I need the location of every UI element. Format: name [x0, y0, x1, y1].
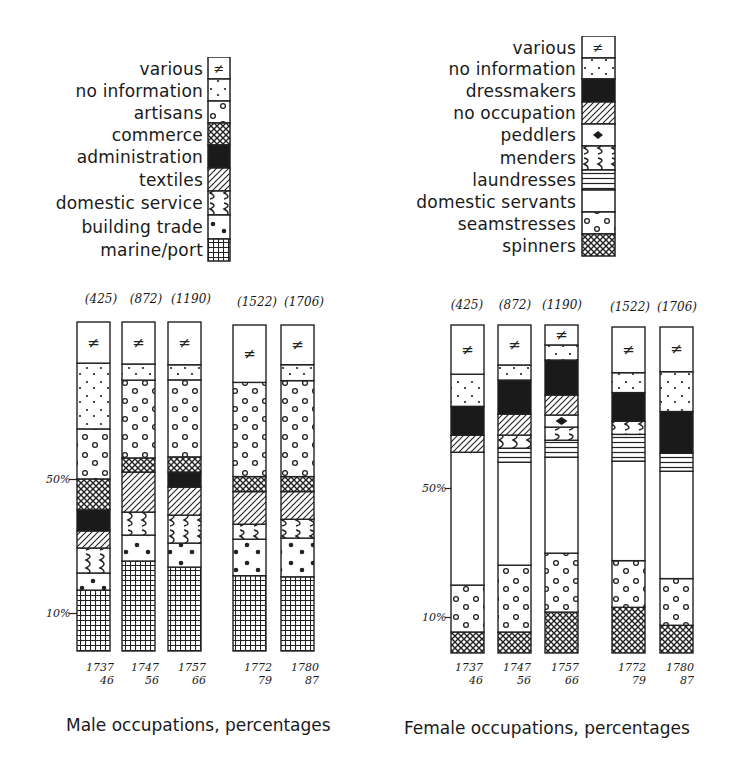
- year-start: 1780: [662, 661, 694, 674]
- segment-seamstresses: [612, 561, 645, 608]
- year-end: 66: [174, 674, 206, 687]
- stacked-bar-1772-79: ≠: [233, 325, 266, 651]
- segment-textiles: [168, 487, 201, 515]
- segment-laundresses: [498, 448, 531, 462]
- segment-spinners: [451, 632, 484, 653]
- segment-no_information: [281, 365, 314, 381]
- segment-seamstresses: [660, 579, 693, 626]
- segment-domestic_servants: [612, 461, 645, 561]
- year-end: 56: [499, 674, 531, 687]
- year-start: 1772: [240, 661, 272, 674]
- neq-icon: ≠: [555, 326, 568, 344]
- segment-artisans: [168, 380, 201, 457]
- segment-seamstresses: [498, 565, 531, 632]
- year-start: 1737: [451, 661, 483, 674]
- segment-textiles: [281, 492, 314, 520]
- neq-icon: ≠: [670, 340, 683, 358]
- segment-domestic_service: [168, 515, 201, 543]
- segment-seamstresses: [545, 553, 578, 612]
- segment-no_information: [122, 364, 155, 380]
- segment-commerce: [77, 479, 110, 510]
- segment-domestic_servants: [545, 457, 578, 553]
- segment-artisans: [281, 381, 314, 477]
- segment-artisans: [77, 429, 110, 479]
- segment-commerce: [122, 458, 155, 472]
- female-caption: Female occupations, percentages: [404, 718, 690, 738]
- stacked-bar-1780-87: ≠: [660, 327, 693, 653]
- segment-no_information: [545, 345, 578, 360]
- segment-no_information: [612, 373, 645, 393]
- segment-domestic_servants: [660, 471, 693, 578]
- segment-marine_port: [281, 577, 314, 651]
- female-year-label: 173746: [451, 661, 483, 687]
- segment-spinners: [545, 612, 578, 653]
- segment-marine_port: [77, 590, 110, 651]
- segment-artisans: [122, 380, 155, 458]
- segment-laundresses: [660, 453, 693, 471]
- segment-spinners: [498, 632, 531, 653]
- segment-textiles: [122, 472, 155, 512]
- neq-icon: ≠: [243, 345, 256, 363]
- male-year-label: 178087: [287, 661, 319, 687]
- stacked-bar-1780-87: ≠: [281, 325, 314, 651]
- segment-menders: [612, 421, 645, 434]
- male-year-label: 173746: [82, 661, 114, 687]
- segment-marine_port: [168, 567, 201, 651]
- segment-domestic_servants: [451, 452, 484, 585]
- year-end: 79: [614, 674, 646, 687]
- segment-commerce: [233, 477, 266, 492]
- segment-no_occupation: [451, 435, 484, 452]
- female-chart-panel: ≠ various no information dressmakers no …: [371, 0, 743, 778]
- segment-domestic_service: [233, 524, 266, 539]
- male-chart-panel: ≠ various no information artisans commer…: [0, 0, 371, 778]
- segment-domestic_service: [77, 548, 110, 573]
- year-end: 56: [127, 674, 159, 687]
- male-year-label: 177279: [240, 661, 272, 687]
- segment-building_trade: [281, 538, 314, 577]
- segment-no_occupation: [498, 414, 531, 435]
- segment-no_information: [77, 363, 110, 429]
- female-year-label: 177279: [614, 661, 646, 687]
- segment-building_trade: [77, 573, 110, 590]
- segment-marine_port: [233, 576, 266, 651]
- segment-dressmakers: [612, 393, 645, 422]
- year-start: 1757: [174, 661, 206, 674]
- year-start: 1747: [127, 661, 159, 674]
- segment-textiles: [77, 531, 110, 548]
- segment-marine_port: [122, 561, 155, 651]
- segment-no_information: [498, 365, 531, 380]
- stacked-bar-1747-56: ≠: [498, 325, 531, 653]
- male-stacked-bars: ≠≠≠≠≠: [0, 0, 371, 700]
- segment-building_trade: [168, 543, 201, 567]
- year-start: 1772: [614, 661, 646, 674]
- year-end: 87: [662, 674, 694, 687]
- stacked-bar-1757-66: ≠: [545, 325, 578, 653]
- year-end: 46: [82, 674, 114, 687]
- neq-icon: ≠: [508, 336, 521, 354]
- neq-icon: ≠: [87, 334, 100, 352]
- segment-menders: [545, 427, 578, 440]
- female-stacked-bars: ≠≠≠≠≠: [371, 0, 743, 700]
- year-end: 87: [287, 674, 319, 687]
- year-end: 46: [451, 674, 483, 687]
- segment-laundresses: [612, 434, 645, 461]
- neq-icon: ≠: [291, 336, 304, 354]
- segment-laundresses: [545, 440, 578, 457]
- neq-icon: ≠: [461, 341, 474, 359]
- female-year-label: 178087: [662, 661, 694, 687]
- segment-administration: [168, 472, 201, 487]
- stacked-bar-1772-79: ≠: [612, 327, 645, 653]
- segment-building_trade: [233, 539, 266, 576]
- male-year-label: 174756: [127, 661, 159, 687]
- segment-spinners: [612, 607, 645, 653]
- segment-dressmakers: [660, 412, 693, 454]
- year-start: 1757: [547, 661, 579, 674]
- segment-dressmakers: [545, 360, 578, 395]
- year-start: 1780: [287, 661, 319, 674]
- segment-no_information: [451, 374, 484, 406]
- segment-seamstresses: [451, 585, 484, 632]
- year-start: 1747: [499, 661, 531, 674]
- segment-menders: [498, 435, 531, 448]
- neq-icon: ≠: [622, 341, 635, 359]
- segment-spinners: [660, 625, 693, 653]
